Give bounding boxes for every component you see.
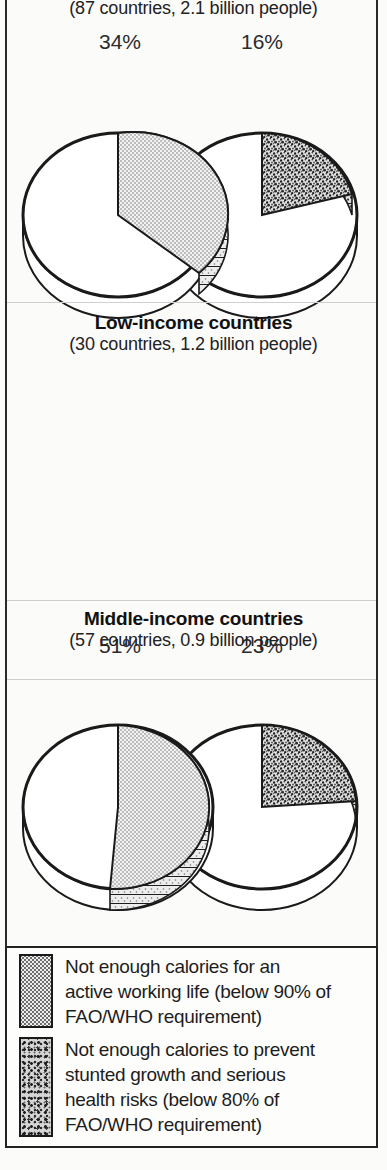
pie-2-right-wedge [262, 725, 356, 807]
legend-swatch-speckle-icon [19, 1037, 53, 1137]
section-1: (87 countries, 2.1 billion people) [0, 0, 387, 19]
section-1-charts [0, 96, 387, 328]
section-divider-3 [7, 679, 376, 680]
legend: Not enough calories for an active workin… [5, 946, 378, 1148]
legend-item-0: Not enough calories for an active workin… [7, 948, 376, 1031]
section-divider-1 [7, 302, 376, 303]
legend-line-1-1: stunted growth and serious [65, 1062, 315, 1087]
section-1-subtitle: (87 countries, 2.1 billion people) [0, 0, 387, 19]
section-2-subtitle: (30 countries, 1.2 billion people) [0, 334, 387, 355]
section-1-percent-row: 34% 16% [0, 30, 387, 60]
legend-line-0-0: Not enough calories for an [65, 954, 331, 979]
section-3-subtitle: (57 countries, 0.9 billion people) [0, 630, 387, 651]
section-3-title: Middle-income countries [0, 608, 387, 630]
section-3: Middle-income countries (57 countries, 0… [0, 608, 387, 651]
legend-line-0-2: FAO/WHO requirement) [65, 1004, 331, 1029]
legend-line-0-1: active working life (below 90% of [65, 979, 331, 1004]
section-divider-2 [7, 600, 376, 601]
section-2: Low-income countries (30 countries, 1.2 … [0, 312, 387, 355]
legend-swatch-stipple-icon [19, 954, 53, 1028]
legend-text-0: Not enough calories for an active workin… [65, 954, 331, 1029]
section-1-right-percent: 16% [222, 30, 302, 54]
section-2-title: Low-income countries [0, 312, 387, 334]
legend-line-1-0: Not enough calories to prevent [65, 1037, 315, 1062]
pie-pair-2 [0, 697, 387, 929]
legend-text-1: Not enough calories to prevent stunted g… [65, 1037, 315, 1137]
pie-2-left [23, 725, 213, 910]
legend-line-1-2: health risks (below 80% of [65, 1087, 315, 1112]
section-2-charts [0, 697, 387, 929]
legend-item-1: Not enough calories to prevent stunted g… [7, 1031, 376, 1139]
legend-line-1-3: FAO/WHO requirement) [65, 1112, 315, 1137]
section-1-left-percent: 34% [80, 30, 160, 54]
pie-pair-1 [0, 96, 387, 328]
